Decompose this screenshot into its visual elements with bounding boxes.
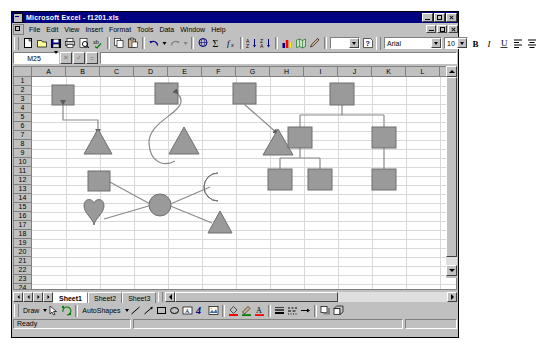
vertical-scrollbar[interactable] xyxy=(446,66,457,278)
last-tab-icon[interactable] xyxy=(43,292,53,302)
arrow-icon[interactable] xyxy=(142,304,155,317)
font-name-dropdown-icon[interactable] xyxy=(431,38,441,48)
row-header-2[interactable]: 2 xyxy=(14,86,31,95)
formula-enter-button[interactable]: ✓ xyxy=(73,52,85,64)
select-all-corner[interactable] xyxy=(14,67,32,77)
doc-restore-button[interactable] xyxy=(437,25,447,33)
hub-shape-circle[interactable] xyxy=(149,194,171,216)
row-header-1[interactable]: 1 xyxy=(14,77,31,86)
help-icon[interactable]: ? xyxy=(361,36,375,50)
copy-icon[interactable] xyxy=(112,36,126,50)
row-header-13[interactable]: 13 xyxy=(14,185,31,194)
drawing-icon[interactable] xyxy=(308,36,322,50)
autoshapes-menu-button[interactable]: AutoShapes xyxy=(80,307,122,314)
drawing-toolbar-grip[interactable] xyxy=(14,304,19,317)
menu-item-file[interactable]: File xyxy=(26,24,43,35)
curved-connector-demo[interactable] xyxy=(149,83,199,164)
org-node-leaf-1[interactable] xyxy=(268,169,292,190)
row-header-12[interactable]: 12 xyxy=(14,176,31,185)
menu-item-view[interactable]: View xyxy=(61,24,82,35)
align-center-icon[interactable] xyxy=(525,36,539,50)
redo-dropdown-icon[interactable] xyxy=(182,36,189,50)
hub-shape-moon[interactable] xyxy=(204,173,218,201)
hub-shape-triangle[interactable] xyxy=(208,211,232,233)
row-header-6[interactable]: 6 xyxy=(14,122,31,131)
line-icon[interactable] xyxy=(129,304,142,317)
menu-item-data[interactable]: Data xyxy=(156,24,177,35)
menu-item-tools[interactable]: Tools xyxy=(134,24,156,35)
print-icon[interactable] xyxy=(63,36,77,50)
menu-item-insert[interactable]: Insert xyxy=(82,24,106,35)
org-node-leaf-3[interactable] xyxy=(372,169,396,190)
print-preview-icon[interactable] xyxy=(77,36,91,50)
horizontal-scrollbar[interactable] xyxy=(165,292,457,303)
row-header-17[interactable]: 17 xyxy=(14,221,31,230)
elbow-connector-demo[interactable] xyxy=(52,85,112,154)
row-header-7[interactable]: 7 xyxy=(14,131,31,140)
org-node-child-2[interactable] xyxy=(372,127,396,148)
horizontal-scroll-track[interactable] xyxy=(175,292,447,302)
zoom-combo[interactable] xyxy=(330,37,360,49)
name-box[interactable]: M25 xyxy=(13,52,59,64)
sheet-tab-sheet3[interactable]: Sheet3 xyxy=(122,292,156,303)
sort-desc-icon[interactable]: ZA xyxy=(259,36,273,50)
scroll-left-button[interactable] xyxy=(165,292,175,302)
undo-dropdown-icon[interactable] xyxy=(161,36,168,50)
row-header-3[interactable]: 3 xyxy=(14,95,31,104)
row-header-19[interactable]: 19 xyxy=(14,239,31,248)
chart-wizard-icon[interactable] xyxy=(280,36,294,50)
menu-item-window[interactable]: Window xyxy=(177,24,208,35)
shape-square[interactable] xyxy=(155,83,178,104)
tab-split-handle[interactable] xyxy=(158,292,163,302)
row-header-20[interactable]: 20 xyxy=(14,248,31,257)
row-header-5[interactable]: 5 xyxy=(14,113,31,122)
menu-item-help[interactable]: Help xyxy=(208,24,228,35)
app-restore-button[interactable] xyxy=(434,13,445,22)
text-box-icon[interactable]: A xyxy=(181,304,194,317)
rectangle-icon[interactable] xyxy=(155,304,168,317)
row-header-11[interactable]: 11 xyxy=(14,167,31,176)
map-icon[interactable] xyxy=(294,36,308,50)
undo-icon[interactable] xyxy=(147,36,161,50)
function-wizard-icon[interactable]: fx xyxy=(224,36,238,50)
arrow-style-icon[interactable] xyxy=(299,304,312,317)
shadow-icon[interactable] xyxy=(319,304,332,317)
prev-tab-icon[interactable] xyxy=(23,292,33,302)
column-header-K[interactable]: K xyxy=(372,67,406,76)
standard-toolbar-grip[interactable] xyxy=(14,37,19,50)
column-header-I[interactable]: I xyxy=(304,67,338,76)
bold-icon[interactable]: B xyxy=(469,36,483,50)
row-header-24[interactable]: 24 xyxy=(14,284,31,290)
org-node-child-1[interactable] xyxy=(288,127,312,148)
scroll-right-button[interactable] xyxy=(447,292,457,302)
formatting-toolbar-grip[interactable] xyxy=(376,37,381,50)
open-icon[interactable] xyxy=(35,36,49,50)
formula-input[interactable] xyxy=(100,52,457,64)
vertical-scroll-thumb[interactable] xyxy=(446,77,457,257)
formula-cancel-button[interactable]: ✕ xyxy=(60,52,72,64)
row-header-23[interactable]: 23 xyxy=(14,275,31,284)
new-icon[interactable] xyxy=(21,36,35,50)
line-style-icon[interactable] xyxy=(273,304,286,317)
menu-item-format[interactable]: Format xyxy=(106,24,134,35)
org-node-root[interactable] xyxy=(330,83,354,105)
row-header-10[interactable]: 10 xyxy=(14,158,31,167)
spelling-icon[interactable]: ab xyxy=(91,36,105,50)
row-header-16[interactable]: 16 xyxy=(14,212,31,221)
row-header-21[interactable]: 21 xyxy=(14,257,31,266)
align-left-icon[interactable] xyxy=(511,36,525,50)
first-tab-icon[interactable] xyxy=(13,292,23,302)
org-chart-tree[interactable] xyxy=(268,83,396,190)
free-rotate-icon[interactable] xyxy=(60,304,73,317)
cell-grid[interactable] xyxy=(32,77,456,289)
row-header-15[interactable]: 15 xyxy=(14,203,31,212)
next-tab-icon[interactable] xyxy=(33,292,43,302)
menu-item-edit[interactable]: Edit xyxy=(43,24,61,35)
row-header-4[interactable]: 4 xyxy=(14,104,31,113)
column-header-A[interactable]: A xyxy=(32,67,66,76)
sheet-tab-sheet1[interactable]: Sheet1 xyxy=(53,292,88,303)
row-header-18[interactable]: 18 xyxy=(14,230,31,239)
name-box-dropdown-icon[interactable] xyxy=(54,54,58,63)
scroll-up-button[interactable] xyxy=(446,66,457,77)
elbow-connector[interactable] xyxy=(63,105,98,134)
